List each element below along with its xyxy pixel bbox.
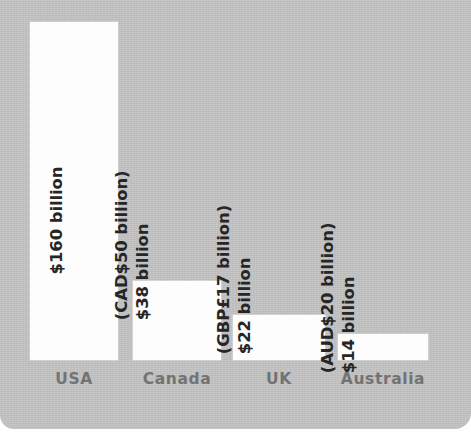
data-label-australia-primary: $14 billion [338, 223, 359, 374]
data-label-canada-secondary: (CAD$50 billion) [111, 170, 132, 320]
data-label-usa: $160 billion [49, 167, 66, 275]
figure-bottom-margin [0, 429, 471, 442]
bar-usa [30, 22, 118, 360]
data-label-australia: (AUD$20 billion) $14 billion [317, 223, 359, 374]
data-label-uk-secondary: (GBP£17 billion) [213, 205, 234, 354]
bar-chart-figure: $160 billion (CAD$50 billion) $38 billio… [0, 0, 471, 442]
data-label-uk-primary: $22 billion [234, 205, 255, 354]
category-label-uk: UK [233, 370, 325, 388]
category-label-canada: Canada [127, 370, 227, 388]
category-label-australia: Australia [330, 370, 436, 388]
data-label-canada: (CAD$50 billion) $38 billion [111, 170, 153, 320]
category-label-usa: USA [30, 370, 118, 388]
data-label-uk: (GBP£17 billion) $22 billion [213, 205, 255, 354]
data-label-canada-primary: $38 billion [132, 170, 153, 320]
data-label-usa-primary: $160 billion [49, 167, 66, 275]
data-label-australia-secondary: (AUD$20 billion) [317, 223, 338, 374]
